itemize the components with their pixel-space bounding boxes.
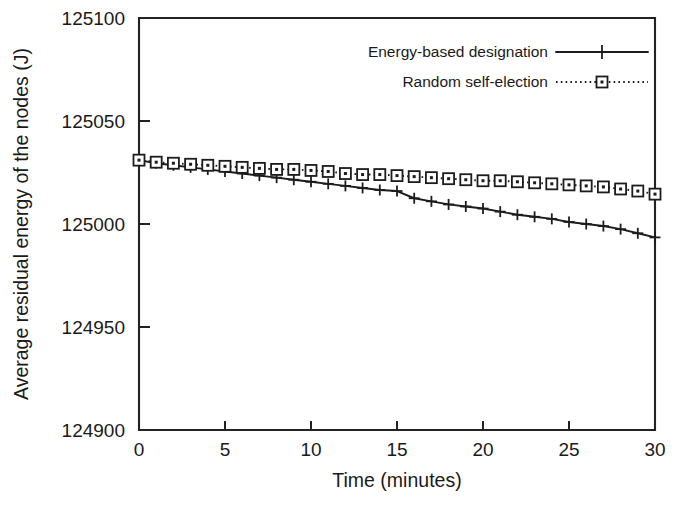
marker-square-center: [447, 177, 450, 180]
marker-square-center: [241, 166, 244, 169]
marker-square-center: [585, 184, 588, 187]
line-chart-canvas: 051015202530 124900124950125000125050125…: [0, 0, 675, 512]
x-axis-title: Time (minutes): [332, 469, 461, 491]
marker-square-center: [206, 164, 209, 167]
marker-square-center: [310, 169, 313, 172]
marker-square-center: [568, 183, 571, 186]
marker-square-center: [619, 187, 622, 190]
chart-figure: 051015202530 124900124950125000125050125…: [0, 0, 675, 512]
marker-square-center: [275, 168, 278, 171]
y-tick-label-124900: 124900: [62, 420, 125, 441]
x-axis-tick-labels: 051015202530: [134, 439, 666, 460]
legend-label-2: Random self-election: [402, 73, 548, 90]
marker-square-center: [636, 190, 639, 193]
y-tick-label-125100: 125100: [62, 8, 125, 29]
marker-square-center: [413, 175, 416, 178]
x-tick-label-5: 5: [220, 439, 231, 460]
marker-square-center: [224, 165, 227, 168]
plot-frame: [139, 18, 655, 430]
x-tick-label-0: 0: [134, 439, 145, 460]
marker-square-center: [172, 162, 175, 165]
marker-square-center: [533, 181, 536, 184]
data-series-group: [134, 155, 661, 243]
x-tick-label-20: 20: [472, 439, 493, 460]
legend-marker-square-center-2: [601, 81, 604, 84]
marker-square-center: [292, 168, 295, 171]
marker-square-center: [396, 174, 399, 177]
x-tick-label-10: 10: [300, 439, 321, 460]
x-tick-label-25: 25: [558, 439, 579, 460]
marker-square-center: [499, 179, 502, 182]
marker-square-center: [138, 159, 141, 162]
y-axis-tick-labels: 124900124950125000125050125100: [62, 8, 125, 441]
x-tick-label-30: 30: [644, 439, 665, 460]
marker-square-center: [344, 172, 347, 175]
marker-square-center: [378, 173, 381, 176]
marker-square-center: [155, 161, 158, 164]
marker-square-center: [602, 185, 605, 188]
marker-square-center: [327, 170, 330, 173]
y-tick-label-125000: 125000: [62, 214, 125, 235]
marker-square-center: [258, 167, 261, 170]
marker-square-center: [482, 179, 485, 182]
marker-square-center: [516, 180, 519, 183]
x-tick-label-15: 15: [386, 439, 407, 460]
marker-square-center: [361, 173, 364, 176]
marker-square-center: [654, 193, 657, 196]
y-tick-label-124950: 124950: [62, 317, 125, 338]
marker-square-center: [464, 178, 467, 181]
chart-legend: Energy-based designationRandom self-elec…: [368, 43, 648, 90]
y-axis-ticks: [139, 121, 150, 327]
y-tick-label-125050: 125050: [62, 111, 125, 132]
marker-square-center: [550, 182, 553, 185]
marker-square-center: [430, 176, 433, 179]
marker-square-center: [189, 163, 192, 166]
y-axis-title: Average residual energy of the nodes (J): [10, 48, 32, 400]
x-axis-ticks: [139, 421, 655, 430]
legend-label-1: Energy-based designation: [368, 43, 548, 60]
